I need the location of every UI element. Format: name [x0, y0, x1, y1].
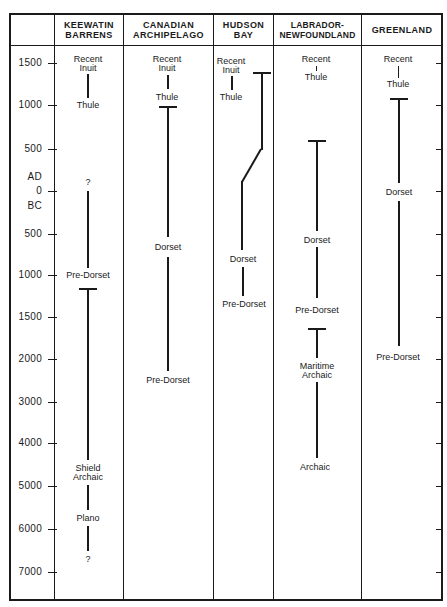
phase-label: Recent Inuit [152, 55, 183, 73]
phase-label: Thule [76, 101, 101, 110]
tick-label: 1000 [2, 270, 42, 280]
right-tick-mark [436, 486, 441, 487]
phase-label: Archaic [299, 463, 331, 472]
phase-line [398, 66, 399, 78]
tick-label: 4000 [2, 438, 42, 448]
frame-bottom [10, 599, 443, 601]
tick-mark [48, 359, 57, 360]
right-tick-mark [436, 191, 441, 192]
tick-mark [48, 191, 57, 192]
phase-label: Pre-Dorset [294, 306, 340, 315]
phase-line [167, 257, 169, 371]
phase-line [316, 66, 317, 71]
phase-label: Thule [219, 93, 244, 102]
phase-label: Pre-Dorset [375, 353, 421, 362]
phase-label: Dorset [303, 236, 332, 245]
phase-line [167, 75, 169, 89]
phase-line [261, 72, 263, 150]
column-divider [273, 13, 274, 601]
tick-mark [48, 234, 57, 235]
tick-mark [48, 275, 57, 276]
phase-line [87, 191, 89, 268]
phase-label: Recent Inuit [216, 57, 247, 75]
phase-label: ? [84, 178, 91, 187]
tick-label: 5000 [2, 481, 42, 491]
tick-label: 500 [2, 144, 42, 154]
header-hudson-bay: HUDSON BAY [214, 14, 273, 45]
right-tick-mark [436, 443, 441, 444]
tick-mark [48, 529, 57, 530]
tick-mark [48, 572, 57, 573]
phase-diagonal-line [240, 148, 266, 184]
header-keewatin-barrens: KEEWATIN BARRENS [55, 14, 123, 45]
phase-line [87, 526, 89, 551]
phase-label: Dorset [154, 243, 183, 252]
tick-label: 0 [2, 186, 42, 196]
header-labrador-newfoundland: LABRADOR- NEWFOUNDLAND [274, 14, 361, 45]
phase-line [87, 485, 89, 510]
tick-label: 500 [2, 229, 42, 239]
phase-label: Pre-Dorset [145, 376, 191, 385]
header-greenland: GREENLAND [362, 14, 442, 45]
tick-label: 7000 [2, 567, 42, 577]
phase-label: Dorset [385, 188, 414, 197]
tick-label: 1500 [2, 312, 42, 322]
phase-line [87, 74, 89, 98]
phase-line [316, 328, 318, 358]
tick-mark [48, 63, 57, 64]
right-tick-mark [436, 572, 441, 573]
era-label-bc: BC [2, 201, 42, 211]
phase-line [316, 382, 318, 458]
tick-label: 1000 [2, 100, 42, 110]
right-tick-mark [436, 317, 441, 318]
phase-line [316, 247, 318, 298]
phase-label: Pre-Dorset [65, 271, 111, 280]
phase-label: Shield Archaic [72, 464, 104, 482]
phase-label: Thule [386, 80, 411, 89]
header-canadian-archipelago: CANADIAN ARCHIPELAGO [124, 14, 213, 45]
right-tick-mark [436, 275, 441, 276]
phase-label: Recent Inuit [73, 55, 104, 73]
tick-label: 6000 [2, 524, 42, 534]
tick-mark [48, 443, 57, 444]
right-tick-mark [436, 234, 441, 235]
column-divider [123, 13, 124, 601]
phase-label: Recent [301, 55, 332, 64]
era-label-ad: AD [2, 172, 42, 182]
right-tick-mark [436, 149, 441, 150]
header-divider [10, 45, 443, 46]
chronology-chart: KEEWATIN BARRENS CANADIAN ARCHIPELAGO HU… [0, 0, 447, 607]
tick-mark [48, 486, 57, 487]
tick-mark [48, 149, 57, 150]
tick-label: 3000 [2, 397, 42, 407]
phase-label: Thule [155, 93, 180, 102]
phase-label: Dorset [229, 255, 258, 264]
right-tick-mark [436, 105, 441, 106]
phase-label: Pre-Dorset [221, 300, 267, 309]
phase-label: Thule [304, 73, 329, 82]
phase-line [231, 76, 233, 90]
column-divider [54, 13, 55, 601]
tick-label: 1500 [2, 58, 42, 68]
phase-label: Maritime Archaic [299, 362, 336, 380]
phase-label: Recent [383, 55, 414, 64]
tick-mark [48, 402, 57, 403]
phase-line [241, 181, 243, 250]
right-tick-mark [436, 63, 441, 64]
column-divider [361, 13, 362, 601]
right-tick-mark [436, 402, 441, 403]
tick-label: 2000 [2, 354, 42, 364]
phase-line [398, 201, 400, 346]
phase-line [167, 106, 169, 237]
phase-line [242, 267, 244, 296]
phase-line [87, 288, 89, 460]
tick-mark [48, 105, 57, 106]
phase-label: Plano [75, 514, 100, 523]
frame-right [441, 13, 443, 601]
phase-line [398, 98, 400, 183]
right-tick-mark [436, 529, 441, 530]
phase-label: ? [84, 555, 91, 564]
tick-mark [48, 317, 57, 318]
right-tick-mark [436, 359, 441, 360]
column-divider [213, 13, 214, 601]
